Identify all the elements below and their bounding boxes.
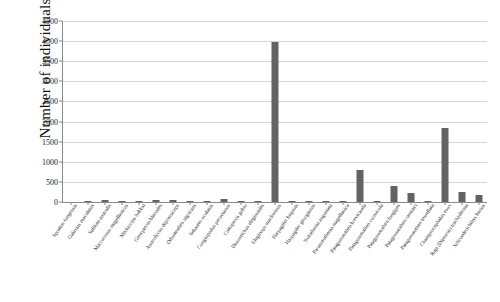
y-tick-label: 0	[54, 198, 58, 207]
y-tick-label: 2000	[42, 117, 58, 126]
y-tick-label: 3500	[42, 57, 58, 66]
y-tick-label: 2500	[42, 97, 58, 106]
y-tick-label: 500	[46, 177, 58, 186]
y-tick-label: 4000	[42, 37, 58, 46]
y-tick-label: 4500	[42, 17, 58, 26]
chart-figure: Number of individuals 050010001500200025…	[0, 0, 500, 302]
y-tick-label: 3000	[42, 77, 58, 86]
y-tick-label: 1000	[42, 157, 58, 166]
y-tick-label: 1500	[42, 137, 58, 146]
bar-slot	[63, 21, 80, 202]
y-axis-tick-labels: 050010001500200025003000350040004500	[26, 15, 62, 207]
x-axis-category-labels: Sprattus fuegensisGalaxias maculatusSali…	[62, 203, 486, 302]
